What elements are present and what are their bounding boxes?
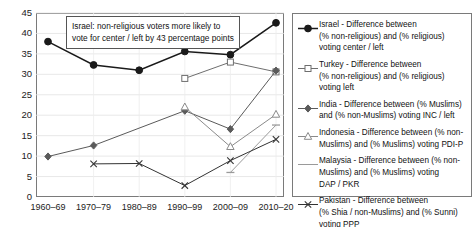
legend-marker-icon [297, 196, 319, 207]
annotation-line-1: Israel: non-religious voters more likely… [72, 20, 234, 32]
y-axis-tick-label: 45 [21, 8, 32, 18]
legend-label-line: Indonesia - Difference between (% non- [319, 127, 463, 139]
legend-item-indonesia[interactable]: Indonesia - Difference between (% non-Mu… [297, 127, 467, 150]
data-point-marker [90, 142, 96, 149]
x-axis-tick-label: 1980–89 [122, 203, 157, 212]
y-axis-tick-label: 40 [21, 29, 32, 39]
legend-label-line: (% Shia / non-Muslims) and (% Sunni) [319, 207, 458, 219]
legend-label-line: Malaysia - Difference between (% non- [319, 155, 460, 167]
legend-item-turkey[interactable]: Turkey - Difference between(% non-religi… [297, 59, 467, 94]
legend-item-israel[interactable]: Israel - Difference between(% non-religi… [297, 19, 467, 54]
data-point-marker [227, 59, 233, 65]
legend-point-marker [305, 25, 312, 32]
legend-label-line: and (% non-Muslims) voting INC / left [319, 110, 462, 122]
legend-point-marker [304, 133, 311, 140]
legend-marker-icon [297, 60, 319, 71]
y-axis-tick-label: 5 [27, 172, 32, 182]
series-india [45, 67, 279, 160]
data-point-marker [182, 75, 188, 81]
legend-item-pakistan[interactable]: Pakistan - Difference between(% Shia / n… [297, 195, 467, 227]
data-point-marker [272, 110, 279, 117]
series-line [230, 125, 276, 172]
x-axis-tick-label: 1960–69 [30, 203, 65, 212]
chart-figure: 051015202530354045 1960–691970–791980–89… [0, 0, 476, 227]
data-point-marker [181, 103, 188, 110]
legend-label-line: Turkey - Difference between [319, 59, 445, 71]
data-point-marker [227, 143, 234, 150]
x-axis-tick-label: 2000–09 [213, 203, 248, 212]
y-axis-tick-label: 15 [21, 131, 32, 141]
legend-label-line: voting left [319, 82, 445, 94]
data-point-marker [45, 153, 51, 160]
legend-label: Malaysia - Difference between (% non-Mus… [319, 155, 460, 190]
series-malaysia [226, 125, 280, 172]
y-axis-tick-label: 25 [21, 90, 32, 100]
data-point-marker [227, 51, 234, 58]
legend-label: Indonesia - Difference between (% non-Mu… [319, 127, 463, 150]
y-axis-tick-label: 0 [27, 192, 32, 202]
y-axis-tick-label: 10 [21, 151, 32, 161]
legend-label-line: voting PPP [319, 219, 458, 227]
x-axis-tick-label: 1990–99 [167, 203, 202, 212]
legend-label-line: DAP / PKR [319, 179, 460, 191]
legend-label-line: Muslims) and (% Muslims) voting PDI-P [319, 139, 463, 151]
y-axis-tick-label: 35 [21, 49, 32, 59]
legend-point-marker [305, 105, 311, 112]
data-point-marker [136, 67, 143, 74]
data-point-marker [90, 62, 97, 69]
data-point-marker [273, 19, 280, 26]
x-axis-tick-label: 2010–20 [258, 203, 293, 212]
annotation-callout: Israel: non-religious voters more likely… [66, 16, 240, 49]
legend-marker-icon [297, 128, 319, 139]
legend-item-malaysia[interactable]: Malaysia - Difference between (% non-Mus… [297, 155, 467, 190]
legend-label-line: voting center / left [319, 42, 445, 54]
legend-label: India - Difference between (% Muslims)an… [319, 99, 462, 122]
legend-label-line: Israel - Difference between [319, 19, 445, 31]
legend-marker-icon [297, 100, 319, 111]
annotation-line-2: vote for center / left by 43 percentage … [72, 32, 234, 44]
legend-label: Israel - Difference between(% non-religi… [319, 19, 445, 54]
series-line [48, 71, 276, 157]
legend-label-line: (% non-religious) and (% religious) [319, 31, 445, 43]
legend-label-line: Pakistan - Difference between [319, 195, 458, 207]
legend-item-india[interactable]: India - Difference between (% Muslims)an… [297, 99, 467, 122]
legend-marker-icon [297, 20, 319, 31]
y-axis-tick-label: 30 [21, 70, 32, 80]
data-point-marker [181, 48, 188, 55]
legend-label: Pakistan - Difference between(% Shia / n… [319, 195, 458, 227]
legend-label-line: Muslims) and (% Muslims) voting [319, 167, 460, 179]
legend-point-marker [305, 65, 311, 71]
chart-legend: Israel - Difference between(% non-religi… [292, 13, 472, 197]
legend-label: Turkey - Difference between(% non-religi… [319, 59, 445, 94]
data-point-marker [45, 38, 52, 45]
legend-marker-icon [297, 156, 319, 167]
x-axis-tick-label: 1970–79 [76, 203, 111, 212]
legend-label-line: (% non-religious) and (% religious) [319, 71, 445, 83]
legend-label-line: India - Difference between (% Muslims) [319, 99, 462, 111]
y-axis-tick-label: 20 [21, 110, 32, 120]
